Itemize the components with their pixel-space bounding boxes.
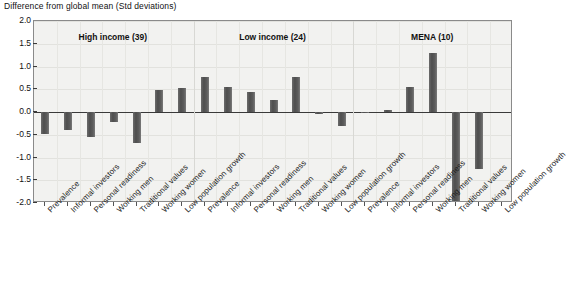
y-axis-tick-mark [33, 202, 37, 203]
x-axis-tick-mark [295, 202, 296, 206]
x-axis-tick-mark [318, 202, 319, 206]
y-axis-tick-label: 2.0 [5, 16, 31, 24]
bar [224, 87, 232, 112]
y-axis-tick-mark [33, 111, 37, 112]
bar [178, 88, 186, 112]
x-axis-tick-mark [204, 202, 205, 206]
gridline-horizontal [34, 89, 511, 90]
y-axis-tick-label: -1.5 [5, 175, 31, 183]
gridline-horizontal [34, 135, 511, 136]
y-axis-tick-mark [33, 157, 37, 158]
x-axis-tick-mark [44, 202, 45, 206]
y-axis-tick-label: 0.5 [5, 84, 31, 92]
x-axis-tick-mark [113, 202, 114, 206]
group-heading: Low income (24) [239, 32, 306, 42]
x-axis-tick-mark [227, 202, 228, 206]
x-axis-tick-mark [67, 202, 68, 206]
gridline-vertical [399, 21, 400, 201]
group-heading: MENA (10) [411, 32, 453, 42]
bar [247, 92, 255, 112]
bar [155, 90, 163, 112]
bar [384, 110, 392, 112]
y-axis-tick-mark [33, 179, 37, 180]
bar [292, 77, 300, 112]
x-axis-tick-mark [273, 202, 274, 206]
bar [110, 112, 118, 122]
y-axis-tick-label: -1.0 [5, 153, 31, 161]
gridline-horizontal [34, 44, 511, 45]
y-axis-tick-mark [33, 43, 37, 44]
gridline-horizontal [34, 67, 511, 68]
bar [41, 112, 49, 134]
x-axis-tick-mark [158, 202, 159, 206]
bar [406, 87, 414, 112]
x-axis-tick-mark [409, 202, 410, 206]
x-axis-tick-mark [181, 202, 182, 206]
y-axis-tick-label: -0.5 [5, 130, 31, 138]
gridline-horizontal [34, 158, 511, 159]
gridline-vertical [80, 21, 81, 201]
x-axis-tick-mark [136, 202, 137, 206]
bar [361, 112, 369, 113]
bar [270, 100, 278, 112]
group-heading: High income (39) [79, 32, 147, 42]
bar [64, 112, 72, 130]
x-axis-tick-mark [501, 202, 502, 206]
y-axis-tick-label: 0.0 [5, 107, 31, 115]
x-axis-tick-mark [90, 202, 91, 206]
y-axis-tick-label: 1.5 [5, 39, 31, 47]
y-axis-tick-mark [33, 66, 37, 67]
bar [429, 53, 437, 112]
x-axis-tick-mark [387, 202, 388, 206]
x-axis-tick-mark [455, 202, 456, 206]
gridline-vertical [239, 21, 240, 201]
y-axis-tick-label: 1.0 [5, 62, 31, 70]
x-axis-tick-mark [478, 202, 479, 206]
bar [475, 112, 483, 169]
gridline-horizontal [34, 21, 511, 22]
y-axis-tick-mark [33, 88, 37, 89]
zero-baseline [34, 112, 511, 113]
bar [315, 112, 323, 114]
bar [87, 112, 95, 137]
x-axis-tick-mark [250, 202, 251, 206]
bar [338, 112, 346, 126]
gridline-vertical [57, 21, 58, 201]
y-axis-tick-mark [33, 134, 37, 135]
bar [201, 77, 209, 112]
y-axis: 2.01.51.00.50.0-0.5-1.0-1.5-2.0 [0, 0, 31, 294]
x-axis-tick-mark [341, 202, 342, 206]
bar [133, 112, 141, 143]
x-axis-tick-mark [364, 202, 365, 206]
y-axis-tick-label: -2.0 [5, 198, 31, 206]
x-axis-tick-mark [432, 202, 433, 206]
